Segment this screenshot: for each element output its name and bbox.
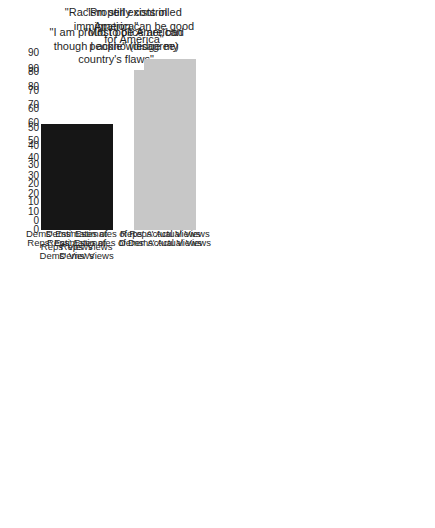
- category-label: Reps' Actual Views: [95, 227, 225, 240]
- chart-panel-bottom-right: "Racism still exists inAmerica"Dems' Est…: [0, 0, 218, 264]
- perception-gap-figure: "Most police are badpeople" (disagree)90…: [0, 0, 435, 528]
- chart-plot-area: Dems' Estimates of Reps' ViewsReps' Actu…: [20, 44, 207, 221]
- chart-title-line: "Racism still exists in: [18, 6, 214, 20]
- chart-title: "Racism still exists inAmerica": [18, 6, 214, 33]
- chart-title-line: America": [18, 20, 214, 34]
- actual-views-bar: [134, 70, 186, 221]
- estimate-bar: [41, 124, 93, 221]
